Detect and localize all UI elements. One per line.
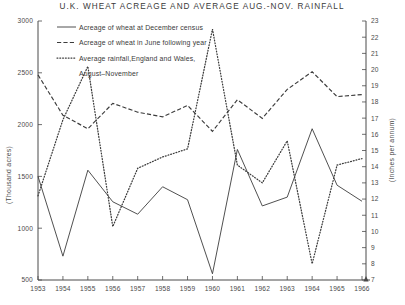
x-axis-tick-label: 1961 [230, 285, 246, 292]
x-axis-tick-label: 1957 [130, 285, 146, 292]
y-axis-right-tick-label: 16 [371, 131, 379, 138]
legend-item-label: Acreage of wheat in June following year [79, 39, 207, 47]
x-axis-tick-label: 1953 [30, 285, 46, 292]
y-axis-left-tick-label: 500 [21, 276, 33, 283]
series-line [38, 72, 362, 132]
x-axis-tick-label: 1955 [80, 285, 96, 292]
y-axis-right-tick-label: 23 [371, 17, 379, 24]
x-axis-tick-label: 1963 [279, 285, 295, 292]
x-axis: 1953195419551956195719581959196019611962… [30, 276, 370, 292]
x-axis-tick-label: 1962 [255, 285, 271, 292]
legend-item-label: August–November [79, 70, 139, 78]
y-axis-right-tick-label: 12 [371, 195, 379, 202]
series-layer [38, 29, 362, 274]
x-axis-tick-label: 1954 [55, 285, 71, 292]
x-axis-tick-label: 1965 [329, 285, 345, 292]
y-axis-left-tick-label: 3000 [18, 17, 34, 24]
chart-legend: Acreage of wheat at December censusAcrea… [57, 24, 207, 79]
y-axis-right-tick-label: 20 [371, 66, 379, 73]
y-axis-right-tick-label: 14 [371, 163, 379, 170]
x-axis-tick-label: 1959 [180, 285, 196, 292]
y-axis-left-tick-label: 1000 [18, 225, 34, 232]
y-axis-right-tick-label: 7 [371, 276, 375, 283]
y-axis-right-tick-label: 21 [371, 50, 379, 57]
legend-item-label: Average rainfall,England and Wales, [79, 55, 195, 63]
y-axis-right-title: (Inches per annum) [388, 118, 396, 182]
y-axis-right-tick-label: 17 [371, 115, 379, 122]
legend-item-label: Acreage of wheat at December census [79, 24, 203, 32]
x-axis-tick-label: 1966 [354, 285, 370, 292]
chart-title: U.K. WHEAT ACREAGE AND AVERAGE AUG.-NOV.… [59, 2, 344, 11]
y-axis-right-tick-label: 11 [371, 212, 378, 219]
y-axis-right-tick-label: 9 [371, 244, 375, 251]
y-axis-left-tick-label: 1500 [18, 173, 34, 180]
series-line [38, 129, 362, 274]
y-axis-right: 7891011121314151617181920212223 [362, 17, 379, 283]
right-axis-arrow [363, 276, 368, 282]
y-axis-right-tick-label: 22 [371, 34, 379, 41]
series-line [38, 29, 362, 264]
x-axis-tick-label: 1958 [155, 285, 171, 292]
y-axis-left-tick-label: 2000 [18, 121, 34, 128]
x-axis-tick-label: 1960 [205, 285, 221, 292]
y-axis-right-tick-label: 19 [371, 82, 379, 89]
y-axis-right-tick-label: 10 [371, 228, 379, 235]
x-axis-tick-label: 1964 [304, 285, 320, 292]
y-axis-right-tick-label: 13 [371, 179, 379, 186]
wheat-acreage-rainfall-chart: U.K. WHEAT ACREAGE AND AVERAGE AUG.-NOV.… [0, 0, 405, 305]
x-axis-tick-label: 1956 [105, 285, 121, 292]
y-axis-right-tick-label: 18 [371, 98, 379, 105]
y-axis-right-tick-label: 15 [371, 147, 379, 154]
chart-container: U.K. WHEAT ACREAGE AND AVERAGE AUG.-NOV.… [0, 0, 405, 305]
y-axis-left-title: (Thousand acres) [5, 146, 13, 204]
y-axis-right-tick-label: 8 [371, 260, 375, 267]
y-axis-left-tick-label: 2500 [18, 69, 34, 76]
